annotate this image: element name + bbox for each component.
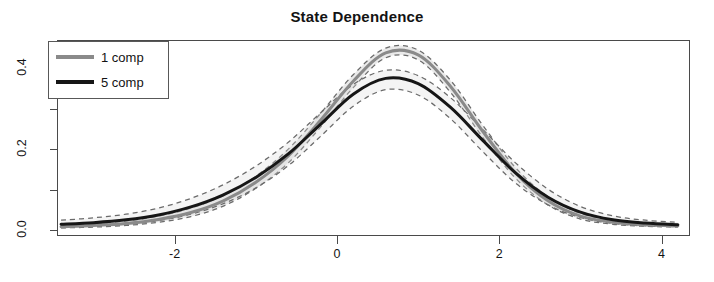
x-tick-mark	[175, 236, 176, 244]
legend-swatch-5-comp	[56, 80, 94, 85]
legend-entry-5-comp: 5 comp	[56, 72, 144, 92]
x-tick-label: 4	[658, 247, 665, 261]
legend-label-1-comp: 1 comp	[101, 51, 144, 64]
y-tick-mark	[50, 109, 57, 110]
chart-figure: State Dependence 0.00.20.4 -2024 1 comp …	[0, 0, 714, 282]
x-tick-mark	[662, 236, 663, 244]
x-tick-mark	[499, 236, 500, 244]
x-tick-label: 2	[496, 247, 503, 261]
chart-legend: 1 comp 5 comp	[48, 41, 169, 99]
legend-label-5-comp: 5 comp	[101, 76, 144, 89]
y-tick-mark	[50, 230, 57, 231]
y-tick-mark	[50, 149, 57, 150]
x-tick-label: 0	[333, 247, 340, 261]
x-axis: -2024	[0, 236, 714, 282]
x-tick-mark	[337, 236, 338, 244]
chart-title: State Dependence	[0, 8, 714, 25]
y-tick-mark	[50, 190, 57, 191]
y-tick-label: 0.4	[15, 47, 29, 87]
legend-swatch-1-comp	[56, 55, 94, 59]
x-tick-label: -2	[169, 247, 180, 261]
legend-entry-1-comp: 1 comp	[56, 47, 144, 67]
y-tick-label: 0.2	[15, 128, 29, 168]
